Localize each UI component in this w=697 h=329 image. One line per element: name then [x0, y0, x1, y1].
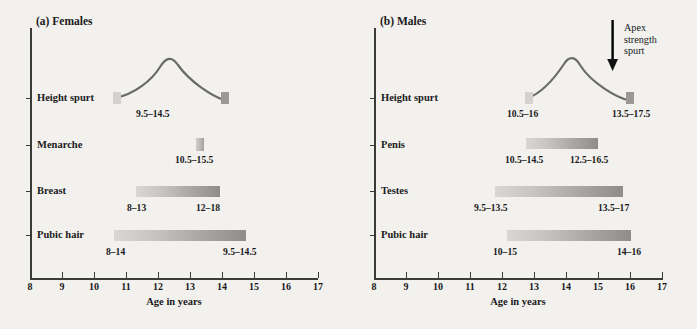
x-tick-label-15: 15 [585, 281, 611, 292]
x-tick-15 [254, 272, 255, 278]
y-tick-breast [26, 191, 32, 192]
height-spurt-onset-range-males: 10.5–16 [507, 108, 538, 119]
x-tick-label-9: 9 [393, 281, 419, 292]
x-tick-8 [374, 272, 375, 278]
x-tick-12 [502, 272, 503, 278]
category-label-testes: Testes [381, 185, 408, 196]
x-tick-9 [406, 272, 407, 278]
x-tick-17 [318, 272, 319, 278]
height-spurt-onset-range-females: 9.5–14.5 [136, 108, 170, 119]
x-tick-label-16: 16 [617, 281, 643, 292]
x-axis-females [30, 278, 318, 280]
penis-onset-range-males: 10.5–14.5 [505, 154, 543, 165]
panel-title-females: (a) Females [36, 15, 93, 27]
x-tick-11 [126, 272, 127, 278]
x-tick-8 [30, 272, 31, 278]
y-tick-pubic-hair [370, 235, 376, 236]
pubic-hair-bar-males [507, 230, 631, 241]
height-spurt-completion-marker-females [221, 92, 229, 104]
x-tick-label-8: 8 [361, 281, 387, 292]
pubic-hair-completion-range-males: 14–16 [617, 246, 641, 257]
x-tick-9 [62, 272, 63, 278]
y-tick-pubic-hair [26, 235, 32, 236]
height-spurt-onset-marker-males [525, 92, 533, 104]
x-tick-label-11: 11 [113, 281, 139, 292]
y-tick-menarche [26, 145, 32, 146]
testes-completion-range-males: 13.5–17 [598, 202, 629, 213]
height-spurt-completion-marker-males [626, 92, 634, 104]
height-spurt-curve-males [348, 30, 697, 110]
x-tick-10 [94, 272, 95, 278]
x-tick-label-12: 12 [489, 281, 515, 292]
x-tick-label-10: 10 [425, 281, 451, 292]
y-tick-testes [370, 191, 376, 192]
pubic-hair-onset-range-females: 8–14 [106, 246, 125, 257]
developmental-milestones-figure: (a) Females 8 9 10 11 12 13 14 15 16 17 … [0, 0, 697, 329]
x-tick-16 [286, 272, 287, 278]
height-spurt-completion-range-males: 13.5–17.5 [612, 108, 650, 119]
x-tick-14 [566, 272, 567, 278]
breast-onset-range-females: 8–13 [127, 202, 146, 213]
x-tick-label-9: 9 [49, 281, 75, 292]
y-tick-penis [370, 145, 376, 146]
x-tick-14 [222, 272, 223, 278]
breast-bar-females [136, 186, 220, 197]
testes-onset-range-males: 9.5–13.5 [474, 202, 508, 213]
category-label-penis: Penis [381, 139, 405, 150]
penis-bar-males [526, 138, 598, 149]
pubic-hair-completion-range-females: 9.5–14.5 [223, 246, 257, 257]
pubic-hair-onset-range-males: 10–15 [493, 246, 517, 257]
panel-males: (b) Males 8 9 10 11 12 13 14 15 16 17 Ag… [348, 0, 697, 329]
x-tick-16 [630, 272, 631, 278]
x-axis-title-females: Age in years [104, 296, 244, 307]
x-tick-label-8: 8 [17, 281, 43, 292]
x-tick-label-13: 13 [521, 281, 547, 292]
x-tick-label-14: 14 [553, 281, 579, 292]
category-label-menarche: Menarche [37, 139, 82, 150]
x-axis-title-males: Age in years [448, 296, 588, 307]
x-tick-label-17: 17 [305, 281, 331, 292]
x-tick-label-12: 12 [145, 281, 171, 292]
x-tick-12 [158, 272, 159, 278]
panel-females: (a) Females 8 9 10 11 12 13 14 15 16 17 … [0, 0, 348, 329]
menarche-marker-females [196, 138, 204, 151]
x-tick-label-11: 11 [457, 281, 483, 292]
x-tick-15 [598, 272, 599, 278]
x-tick-17 [662, 272, 663, 278]
height-spurt-onset-marker-females [113, 92, 121, 104]
x-tick-11 [470, 272, 471, 278]
breast-completion-range-females: 12–18 [196, 202, 220, 213]
category-label-breast: Breast [37, 185, 66, 196]
x-tick-label-13: 13 [177, 281, 203, 292]
x-tick-13 [190, 272, 191, 278]
category-label-pubic-hair: Pubic hair [381, 229, 428, 240]
pubic-hair-bar-females [114, 230, 246, 241]
penis-completion-range-males: 12.5–16.5 [570, 154, 608, 165]
x-tick-label-16: 16 [273, 281, 299, 292]
x-tick-label-10: 10 [81, 281, 107, 292]
x-tick-10 [438, 272, 439, 278]
x-tick-label-17: 17 [649, 281, 675, 292]
height-spurt-curve-females [0, 30, 348, 110]
x-tick-label-14: 14 [209, 281, 235, 292]
x-axis-males [374, 278, 663, 280]
testes-bar-males [495, 186, 623, 197]
x-tick-13 [534, 272, 535, 278]
panel-title-males: (b) Males [380, 15, 426, 27]
x-tick-label-15: 15 [241, 281, 267, 292]
category-label-pubic-hair: Pubic hair [37, 229, 84, 240]
menarche-range-females: 10.5–15.5 [175, 154, 213, 165]
